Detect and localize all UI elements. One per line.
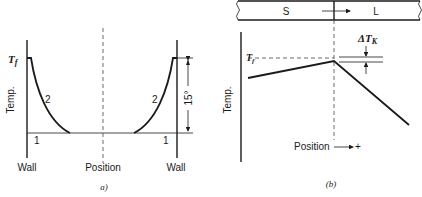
- position-label: Position: [85, 162, 121, 173]
- wall-right-label: Wall: [166, 162, 185, 173]
- curve-2-right-label: 2: [152, 94, 158, 105]
- diagram-canvas: 15° Tf Temp. 2 2 1 1 Wall Position Wall …: [0, 0, 422, 197]
- liquid-label: L: [373, 6, 379, 17]
- solid-label: S: [283, 6, 290, 17]
- tf-label-b: Tf: [246, 52, 255, 65]
- delta-tk-label: ΔTK: [357, 32, 378, 46]
- tf-label: Tf: [8, 53, 19, 67]
- temperature-profile: [248, 61, 409, 125]
- caption-a: a): [100, 182, 108, 192]
- curve-1-left-label: 1: [34, 135, 40, 146]
- panel-b: S L ΔTK Tf Temp. Position + (b): [222, 1, 422, 189]
- curve-1-right-label: 1: [163, 135, 169, 146]
- dimension-arrowhead-top: [186, 60, 190, 65]
- caption-b: (b): [326, 179, 337, 189]
- dimension-label: 15°: [183, 90, 194, 105]
- position-label-b: Position: [294, 141, 330, 152]
- panel-a: 15° Tf Temp. 2 2 1 1 Wall Position Wall …: [5, 28, 194, 192]
- y-axis-label-b: Temp.: [222, 86, 233, 113]
- y-axis-label: Temp.: [5, 86, 16, 113]
- bar-break-right: [419, 1, 422, 20]
- bar-break-left: [237, 1, 240, 20]
- wall-left-label: Wall: [17, 162, 36, 173]
- curve-2-left-label: 2: [45, 94, 51, 105]
- position-plus: +: [355, 141, 361, 152]
